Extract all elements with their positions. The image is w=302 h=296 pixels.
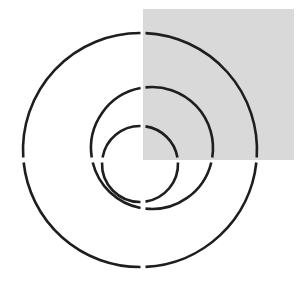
inner-circle-arc: [103, 126, 141, 158]
outer-circle-arc: [146, 162, 257, 266]
inner-circle-arc: [102, 162, 141, 202]
inner-circle-arc: [145, 162, 178, 201]
concentric-circles-diagram: [0, 0, 302, 296]
middle-circle-arc: [91, 88, 141, 157]
outer-circle-arc: [24, 162, 141, 267]
